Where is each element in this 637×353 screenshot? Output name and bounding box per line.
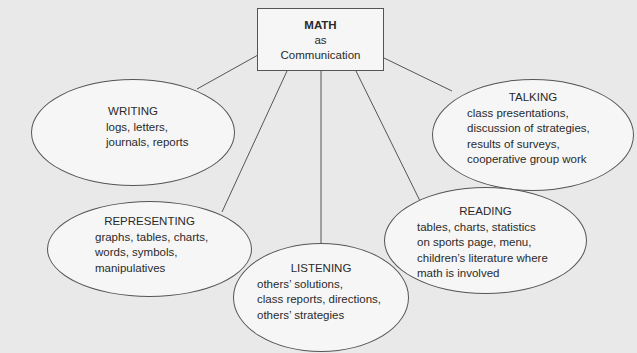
connector-talking [384,58,452,91]
node-line: manipulatives [95,261,251,277]
node-line: tables, charts, statistics [417,220,586,236]
central-title: MATH [258,18,383,33]
node-listening: LISTENING others’ solutions, class repor… [233,243,409,352]
node-line: on sports page, menu, [417,235,586,251]
node-title: LISTENING [234,261,408,277]
node-line: children’s literature where [417,251,586,267]
node-line: graphs, tables, charts, [95,230,251,246]
node-line: results of surveys, [467,137,633,153]
node-title: WRITING [32,104,234,120]
node-line: math is involved [417,266,586,282]
node-title: TALKING [433,90,633,106]
central-line2: as [258,33,383,48]
node-line: discussion of strategies, [467,121,633,137]
node-line: class presentations, [467,106,633,122]
node-line: others’ strategies [257,308,408,324]
node-talking: TALKING class presentations, discussion … [432,79,634,191]
node-writing: WRITING logs, letters, journals, reports [31,79,235,186]
connector-reading [356,71,422,205]
central-line3: Communication [258,48,383,63]
node-representing: REPRESENTING graphs, tables, charts, wor… [47,201,252,297]
node-title: READING [385,204,586,220]
node-reading: READING tables, charts, statistics on sp… [384,187,587,294]
node-title: REPRESENTING [48,214,251,230]
connector-writing [197,55,258,89]
node-line: words, symbols, [95,245,251,261]
node-line: class reports, directions, [257,292,408,308]
node-line: logs, letters, [106,120,234,136]
central-box-math-as-communication: MATH as Communication [257,8,384,71]
node-line: others’ solutions, [257,277,408,293]
node-line: journals, reports [106,135,234,151]
node-line: cooperative group work [467,152,633,168]
